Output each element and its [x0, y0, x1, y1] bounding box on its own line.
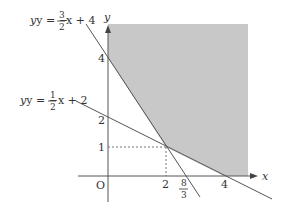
svg-text:3: 3 [59, 10, 65, 20]
x-tick-4: 4 [221, 178, 228, 191]
equation-label-line-2: yy = − 1 2 x + 2 [19, 90, 87, 112]
origin-label: O [96, 179, 105, 192]
y-tick-1: 1 [98, 141, 105, 154]
y-tick-4: 4 [98, 52, 105, 65]
graph-canvas: x y O 4 2 1 2 4 8 3 yy = − 3 2 x + 4 yy … [0, 0, 292, 213]
x-tick-2: 2 [162, 178, 169, 191]
svg-text:1: 1 [50, 90, 56, 100]
svg-text:x + 2: x + 2 [58, 94, 87, 107]
shaded-region [108, 24, 248, 176]
svg-text:2: 2 [59, 22, 65, 32]
x-tick-8-3-num: 8 [181, 178, 187, 188]
svg-text:x + 4: x + 4 [66, 14, 95, 27]
equation-label-line-1: yy = − 3 2 x + 4 [29, 10, 95, 32]
x-tick-8-3-den: 3 [181, 190, 187, 200]
x-axis-arrow-icon [250, 173, 258, 179]
y-axis-label: y [103, 11, 111, 24]
x-axis-label: x [262, 170, 269, 183]
svg-text:2: 2 [50, 102, 56, 112]
y-tick-2: 2 [98, 114, 105, 127]
